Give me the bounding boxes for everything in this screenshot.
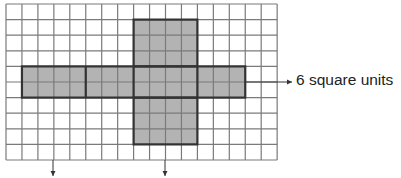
arrowhead-icon bbox=[51, 171, 56, 176]
arrowhead-icon bbox=[163, 171, 168, 176]
grid-diagram bbox=[0, 0, 401, 178]
area-label: 6 square units bbox=[296, 71, 393, 89]
arrowhead-icon bbox=[287, 80, 292, 85]
